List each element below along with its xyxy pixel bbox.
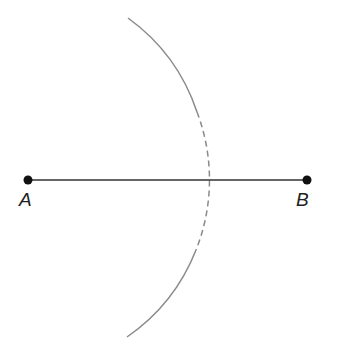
construction-diagram xyxy=(0,0,337,348)
arc-middle-dashed xyxy=(196,112,209,250)
arc-bottom-solid xyxy=(127,250,196,337)
point-a-dot xyxy=(24,176,33,185)
point-b-dot xyxy=(303,176,312,185)
point-b-label: B xyxy=(296,189,309,211)
arc-top-solid xyxy=(128,18,197,112)
point-a-label: A xyxy=(19,189,32,211)
